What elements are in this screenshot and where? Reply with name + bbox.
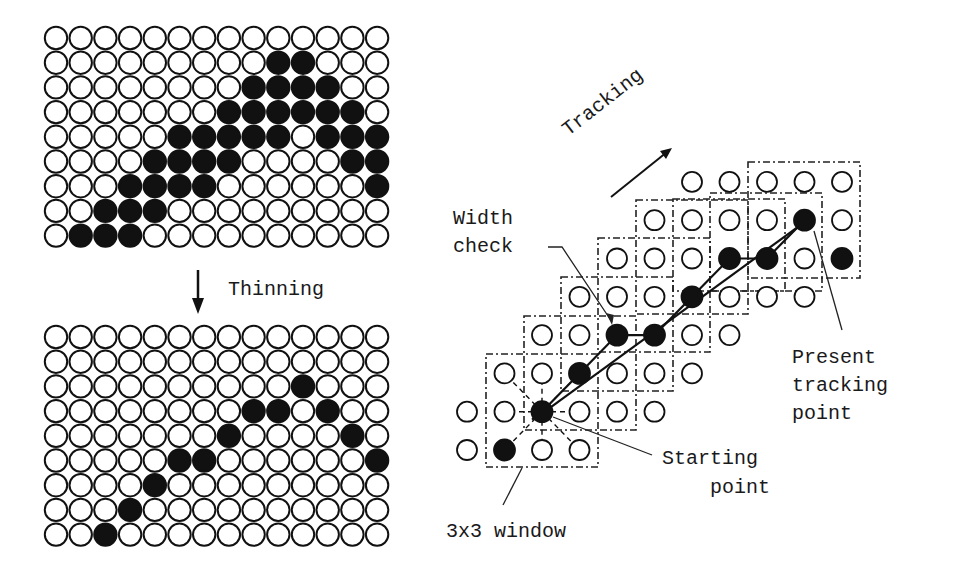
filled-pixel [70,224,92,246]
empty-pixel [242,326,264,348]
filled-pixel [682,286,703,307]
empty-pixel [144,400,166,422]
grid-before-thinning [45,27,389,247]
empty-pixel [267,224,289,246]
empty-pixel [267,474,289,496]
empty-pixel [45,351,67,373]
empty-pixel [70,474,92,496]
empty-pixel [317,499,339,521]
empty-pixel [94,150,116,172]
empty-pixel [607,363,627,383]
empty-pixel [317,375,339,397]
empty-pixel [682,325,702,345]
empty-pixel [193,27,215,49]
empty-pixel [218,499,240,521]
filled-pixel [267,76,289,98]
empty-pixel [168,400,190,422]
empty-pixel [292,224,314,246]
empty-pixel [144,375,166,397]
filled-pixel [242,76,264,98]
empty-pixel [193,425,215,447]
empty-pixel [720,172,740,192]
empty-pixel [341,400,363,422]
filled-pixel [366,449,388,471]
empty-pixel [168,76,190,98]
filled-pixel [719,248,740,269]
empty-pixel [168,200,190,222]
thinning-tracking-diagram [0,0,960,575]
filled-pixel [218,126,240,148]
empty-pixel [292,474,314,496]
empty-pixel [292,175,314,197]
filled-pixel [341,150,363,172]
empty-pixel [119,150,141,172]
filled-pixel [366,150,388,172]
empty-pixel [218,76,240,98]
empty-pixel [94,52,116,74]
empty-pixel [70,425,92,447]
empty-pixel [366,76,388,98]
empty-pixel [70,351,92,373]
empty-pixel [168,523,190,545]
empty-pixel [242,224,264,246]
empty-pixel [607,402,627,422]
empty-pixel [242,425,264,447]
empty-pixel [70,27,92,49]
empty-pixel [94,101,116,123]
empty-pixel [341,52,363,74]
empty-pixel [119,375,141,397]
empty-pixel [570,325,590,345]
present-tracking-point [794,210,815,231]
filled-pixel [242,126,264,148]
empty-pixel [70,52,92,74]
empty-pixel [70,175,92,197]
empty-pixel [645,363,665,383]
empty-pixel [70,449,92,471]
empty-pixel [242,449,264,471]
filled-pixel [119,200,141,222]
empty-pixel [45,523,67,545]
empty-pixel [119,449,141,471]
empty-pixel [218,52,240,74]
filled-pixel [144,474,166,496]
window-label: 3x3 window [446,520,566,543]
empty-pixel [119,326,141,348]
empty-pixel [168,375,190,397]
empty-pixel [795,249,815,269]
width-check-label-line2: check [453,235,513,258]
empty-pixel [366,523,388,545]
filled-pixel [218,425,240,447]
empty-pixel [267,150,289,172]
empty-pixel [267,27,289,49]
empty-pixel [119,400,141,422]
empty-pixel [242,375,264,397]
present-tracking-point-label-line3: point [792,402,852,425]
empty-pixel [645,287,665,307]
empty-pixel [45,400,67,422]
empty-pixel [193,101,215,123]
empty-pixel [570,440,590,460]
empty-pixel [317,224,339,246]
empty-pixel [218,224,240,246]
present-tracking-point-label-line1: Present [792,346,876,369]
empty-pixel [94,326,116,348]
empty-pixel [267,351,289,373]
empty-pixel [720,287,740,307]
empty-pixel [366,400,388,422]
empty-pixel [292,449,314,471]
empty-pixel [341,27,363,49]
empty-pixel [317,52,339,74]
filled-pixel [292,101,314,123]
starting-point-label-line1: Starting [662,447,758,470]
filled-pixel [317,101,339,123]
filled-pixel [193,126,215,148]
empty-pixel [168,27,190,49]
empty-pixel [720,325,740,345]
empty-pixel [366,52,388,74]
present-tracking-point-label-line2: tracking [792,374,888,397]
empty-pixel [119,101,141,123]
empty-pixel [457,440,477,460]
filled-pixel [341,425,363,447]
empty-pixel [193,200,215,222]
empty-pixel [144,52,166,74]
